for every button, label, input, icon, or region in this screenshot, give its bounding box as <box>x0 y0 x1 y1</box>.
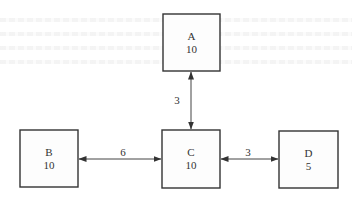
edge-c-a: 3 <box>174 72 191 129</box>
node-b-value: 10 <box>44 159 56 171</box>
edge-label-c-d: 3 <box>245 146 251 158</box>
node-c-name: C <box>187 146 194 158</box>
node-a-name: A <box>188 30 196 42</box>
node-a: A 10 <box>163 14 220 71</box>
edge-b-c: 6 <box>79 146 161 159</box>
edge-c-d: 3 <box>221 146 278 159</box>
network-diagram: 3 6 3 A 10 B 10 C 10 D 5 <box>0 0 352 202</box>
node-c-value: 10 <box>186 159 198 171</box>
edge-label-b-c: 6 <box>120 146 126 158</box>
node-d-name: D <box>305 147 313 159</box>
edge-label-c-a: 3 <box>174 94 180 106</box>
node-a-value: 10 <box>186 43 198 55</box>
node-c: C 10 <box>162 130 220 188</box>
node-d: D 5 <box>279 131 338 188</box>
node-d-value: 5 <box>306 160 312 172</box>
node-b: B 10 <box>20 130 78 187</box>
node-b-name: B <box>45 146 52 158</box>
